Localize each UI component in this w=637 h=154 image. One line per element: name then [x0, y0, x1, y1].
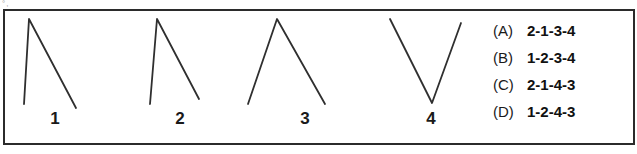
figure-label-4: 4 — [416, 109, 446, 129]
figure-label-1: 1 — [40, 109, 70, 129]
answer-option-b[interactable]: (B) 1-2-3-4 — [493, 49, 637, 76]
answer-option-d-value: 1-2-4-3 — [527, 103, 575, 120]
answer-option-c[interactable]: (C) 2-1-4-3 — [493, 76, 637, 103]
figure-1-polyline — [24, 19, 76, 108]
answer-option-b-key: (B) — [493, 49, 527, 66]
figure-3-polyline — [248, 19, 325, 104]
question-panel: 1 2 3 4 (A) 2-1-3-4 (B) 1-2-3-4 (C) 2-1-… — [3, 9, 635, 145]
answer-option-d-key: (D) — [493, 103, 527, 120]
answer-option-a[interactable]: (A) 2-1-3-4 — [493, 22, 637, 49]
answer-option-c-value: 2-1-4-3 — [527, 76, 575, 93]
answer-option-d[interactable]: (D) 1-2-4-3 — [493, 103, 637, 130]
scan-artifact: °, — [2, 0, 16, 7]
answer-option-a-value: 2-1-3-4 — [527, 22, 575, 39]
figure-number-labels: 1 2 3 4 — [5, 109, 485, 141]
answer-option-c-key: (C) — [493, 76, 527, 93]
answer-option-a-key: (A) — [493, 22, 527, 39]
answer-option-b-value: 1-2-3-4 — [527, 49, 575, 66]
figure-label-2: 2 — [165, 109, 195, 129]
question-figure: °, 1 — [0, 0, 637, 154]
figure-2-polyline — [150, 19, 199, 104]
figure-4-polyline — [390, 19, 461, 103]
answer-options-list: (A) 2-1-3-4 (B) 1-2-3-4 (C) 2-1-4-3 (D) … — [493, 22, 637, 130]
figure-label-3: 3 — [290, 109, 320, 129]
